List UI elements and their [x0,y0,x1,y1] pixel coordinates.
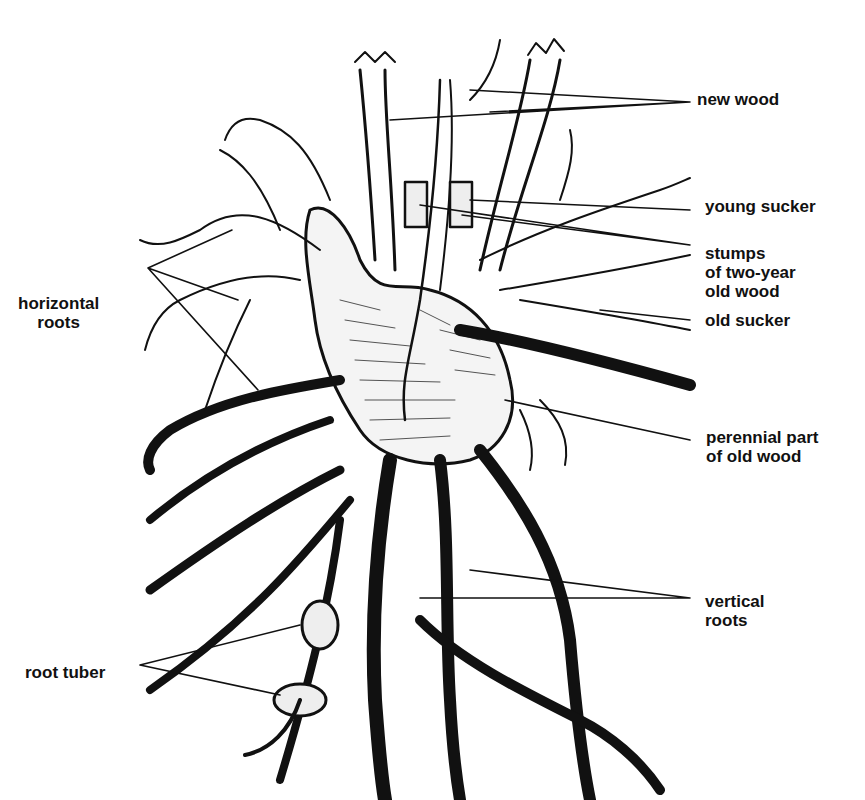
label-horizontal-roots: horizontal roots [18,294,99,332]
vertical-root-1 [374,460,390,800]
vertical-root-3 [480,450,590,800]
label-new-wood: new wood [697,90,779,109]
label-stumps-two-year-old-wood: stumps of two-year old wood [705,244,796,301]
root-system-illustration [0,0,865,800]
cane-left [360,70,395,270]
label-old-sucker: old sucker [705,311,790,330]
vertical-root-2 [440,460,460,800]
label-root-tuber: root tuber [25,663,105,682]
label-young-sucker: young sucker [705,197,816,216]
diagram-canvas: new wood young sucker stumps of two-year… [0,0,865,800]
label-perennial-part-old-wood: perennial part of old wood [706,428,818,466]
label-vertical-roots: vertical roots [705,592,765,630]
root-tuber-1 [302,601,338,649]
